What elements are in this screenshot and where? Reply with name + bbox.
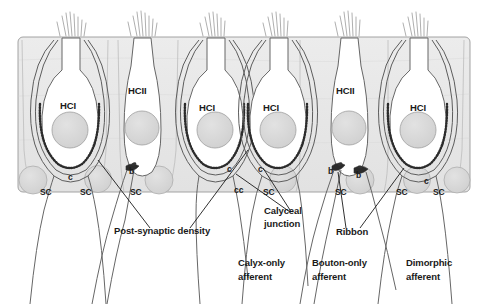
afferent-label-dimorphic-line2: afferent (406, 272, 440, 283)
nucleus-hc4 (260, 112, 296, 148)
marker-calyx-4: c (424, 177, 429, 187)
marker-calyx-1: c (68, 173, 73, 183)
hair-cell-label-hc4: HCI (263, 103, 279, 114)
hair-cell-label-hc2: HCII (128, 86, 147, 97)
stereocilia-bundle-hc4 (263, 12, 288, 36)
marker-calyx-3: c (258, 165, 263, 175)
afferent-label-calyx-only-line2: afferent (238, 272, 272, 283)
afferent-label-bouton-only-line2: afferent (312, 272, 346, 283)
nucleus-hc2 (125, 111, 159, 145)
stereocilia-bundle-hc3 (200, 12, 225, 36)
stereocilia-bundle-hc6 (403, 12, 428, 36)
callout-calyceal-junction-line1: Calyceal (264, 206, 302, 217)
nucleus-hc1 (52, 112, 88, 148)
supporting-cell-label-6: SC (396, 188, 408, 198)
afferent-label-bouton-only-line1: Bouton-only (312, 258, 367, 269)
hair-cell-label-hc5: HCII (336, 86, 355, 97)
afferent-label-calyx-only-line1: Calyx-only (238, 258, 285, 269)
nucleus-hc5 (332, 111, 366, 145)
marker-complex-calyx: cc (234, 186, 243, 196)
nucleus-hc3 (197, 112, 233, 148)
hair-cell-label-hc1: HCI (60, 101, 76, 112)
supporting-cell-label-5: SC (335, 188, 347, 198)
supporting-cell-label-4: SC (263, 188, 275, 198)
supporting-cell-label-1: SC (40, 188, 52, 198)
stereocilia-bundle-hc1 (57, 12, 86, 36)
supporting-cell-label-7: SC (433, 188, 445, 198)
nucleus-hc6 (400, 112, 436, 148)
hair-cell-label-hc6: HCI (410, 103, 426, 114)
afferent-fiber-hc4 (242, 176, 308, 304)
stereocilia-bundle-hc2 (128, 11, 157, 36)
hair-cell-diagram: HCI HCII HCI HCI HCII HCI SC SC SC SC SC… (0, 0, 485, 304)
hair-cell-label-hc3: HCI (199, 103, 215, 114)
marker-calyx-2: c (227, 165, 232, 175)
supporting-cell-label-3: SC (130, 188, 142, 198)
marker-bouton-1: b (129, 167, 134, 177)
marker-bouton-3: b (356, 171, 361, 181)
callout-post-synaptic-density: Post-synaptic density (114, 226, 210, 237)
supporting-cell-label-2: SC (80, 188, 92, 198)
callout-calyceal-junction-line2: junction (264, 219, 300, 230)
stereocilia-bundle-hc5 (335, 11, 360, 36)
callout-ribbon: Ribbon (336, 227, 368, 238)
afferent-label-dimorphic-line1: Dimorphic (406, 258, 452, 269)
marker-bouton-2: b (328, 167, 333, 177)
stereocilia-bundles (57, 11, 428, 36)
